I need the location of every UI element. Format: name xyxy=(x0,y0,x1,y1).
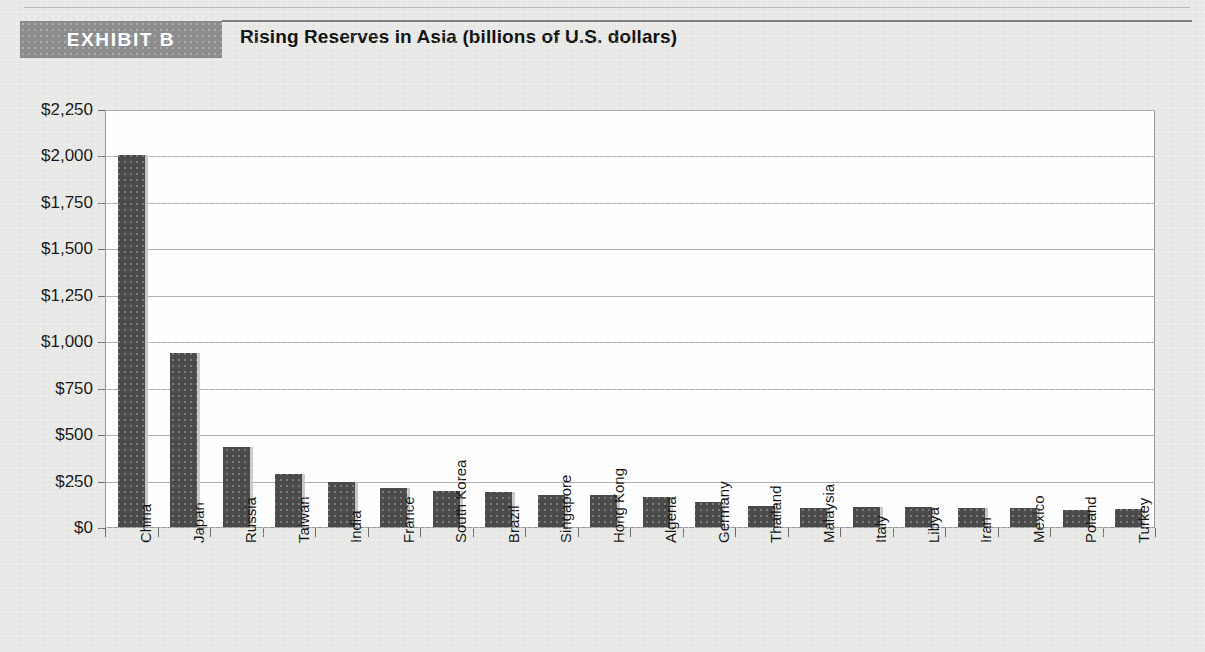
y-axis-tick xyxy=(98,342,105,343)
x-axis-tick xyxy=(525,528,526,537)
x-axis-tick xyxy=(683,528,684,537)
x-axis-tick-label: Japan xyxy=(190,502,207,543)
x-axis-tick xyxy=(630,528,631,537)
x-axis-tick xyxy=(105,528,106,537)
x-axis-tick-label: Mexico xyxy=(1030,495,1047,543)
x-axis-tick xyxy=(840,528,841,537)
x-axis-tick xyxy=(368,528,369,537)
bar xyxy=(118,155,145,527)
gridline xyxy=(105,389,1155,390)
y-axis-tick xyxy=(98,296,105,297)
x-axis-tick xyxy=(1155,528,1156,537)
y-axis-tick-label: $1,250 xyxy=(41,286,93,306)
gridline xyxy=(105,342,1155,343)
x-axis-tick-label: Malaysia xyxy=(820,484,837,543)
y-axis-tick-label: $750 xyxy=(55,379,93,399)
x-axis-tick-label: France xyxy=(400,496,417,543)
x-axis-tick-label: Turkey xyxy=(1135,498,1152,543)
y-axis-tick-label: $2,000 xyxy=(41,146,93,166)
y-axis-tick-label: $250 xyxy=(55,472,93,492)
y-axis-tick-label: $1,500 xyxy=(41,239,93,259)
x-axis-tick xyxy=(788,528,789,537)
x-axis-tick-label: South Korea xyxy=(452,460,469,543)
gridline xyxy=(105,296,1155,297)
x-axis-tick xyxy=(158,528,159,537)
gridline xyxy=(105,156,1155,157)
y-axis-tick-label: $0 xyxy=(74,518,93,538)
x-axis-tick-label: Germany xyxy=(715,481,732,543)
y-axis-tick xyxy=(98,110,105,111)
y-axis-tick xyxy=(98,435,105,436)
x-axis-tick-label: India xyxy=(347,510,364,543)
y-axis-tick-label: $1,750 xyxy=(41,193,93,213)
gridline xyxy=(105,482,1155,483)
x-axis-tick-label: Taiwan xyxy=(295,496,312,543)
x-axis-tick xyxy=(1050,528,1051,537)
x-axis-tick xyxy=(893,528,894,537)
y-axis-tick xyxy=(98,249,105,250)
y-axis-tick-label: $500 xyxy=(55,425,93,445)
x-axis-tick-label: Italy xyxy=(872,515,889,543)
y-axis-tick-label: $1,000 xyxy=(41,332,93,352)
gridline xyxy=(105,435,1155,436)
x-axis-tick xyxy=(1103,528,1104,537)
x-axis-tick-label: Singapore xyxy=(557,475,574,543)
gridline xyxy=(105,110,1155,111)
x-axis-tick-label: Brazil xyxy=(505,505,522,543)
x-axis-tick-label: Russia xyxy=(242,497,259,543)
bar xyxy=(170,353,197,527)
gridline xyxy=(105,249,1155,250)
bar-chart: $0$250$500$750$1,000$1,250$1,500$1,750$2… xyxy=(0,0,1205,652)
x-axis-tick xyxy=(420,528,421,537)
x-axis-tick xyxy=(315,528,316,537)
x-axis-tick xyxy=(473,528,474,537)
y-axis-tick-label: $2,250 xyxy=(41,100,93,120)
y-axis-tick xyxy=(98,528,105,529)
x-axis-tick xyxy=(210,528,211,537)
x-axis-tick-label: Iran xyxy=(977,517,994,543)
y-axis-tick xyxy=(98,389,105,390)
x-axis-tick-label: Hong Kong xyxy=(610,468,627,543)
x-axis-tick-label: Algeria xyxy=(662,496,679,543)
x-axis-tick xyxy=(263,528,264,537)
x-axis-tick xyxy=(945,528,946,537)
plot-area xyxy=(105,110,1155,528)
gridline xyxy=(105,203,1155,204)
y-axis-tick xyxy=(98,156,105,157)
x-axis-tick-label: Thailand xyxy=(767,485,784,543)
x-axis-tick-label: China xyxy=(137,504,154,543)
y-axis-tick xyxy=(98,482,105,483)
y-axis-tick xyxy=(98,203,105,204)
x-axis-tick-label: Libya xyxy=(925,507,942,543)
x-axis-tick-label: Poland xyxy=(1082,496,1099,543)
x-axis-tick xyxy=(578,528,579,537)
x-axis-tick xyxy=(735,528,736,537)
x-axis-tick xyxy=(998,528,999,537)
